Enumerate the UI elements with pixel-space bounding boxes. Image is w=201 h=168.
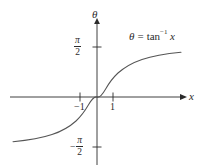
fraction-pi-over-2: π 2 [76,136,83,157]
fraction-denominator: 2 [76,147,83,157]
y-tick-label-pi-over-2: π 2 [74,36,81,57]
fraction-numerator: π [76,136,83,146]
plot-canvas [0,0,201,168]
x-tick-label-pos1: 1 [110,102,115,112]
fraction-pi-over-2: π 2 [74,36,81,57]
equation-variable: x [168,31,175,42]
x-axis-arrowhead [180,94,187,100]
x-tick-label-neg1: −1 [74,102,85,112]
equation-annotation: θ = tan −1 x [129,31,175,42]
theta-axis-label: θ [92,9,97,20]
equation-equals-sign: = [134,31,146,42]
equation-function-name: tan [147,31,160,42]
x-axis-label: x [189,91,194,102]
arctangent-figure: θ x −1 1 π 2 − π 2 θ = tan −1 x [0,0,201,168]
fraction-numerator: π [74,36,81,46]
fraction-denominator: 2 [74,47,81,57]
y-tick-label-neg-pi-over-2: − π 2 [70,136,83,157]
equation-exponent: −1 [160,29,167,36]
